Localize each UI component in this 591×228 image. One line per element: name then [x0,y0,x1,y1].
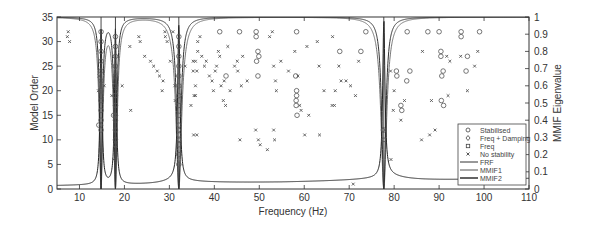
no-stability-marker [223,79,226,82]
no-stability-marker [331,35,334,38]
no-stability-marker [323,89,326,92]
x-tick-label: 100 [476,192,493,203]
no-stability-marker [172,30,175,33]
no-stability-marker [218,55,221,58]
no-stability-marker [158,75,161,78]
stabilised-marker [408,69,413,74]
no-stability-marker [337,65,340,68]
no-stability-marker [466,89,469,92]
no-stability-marker [316,40,319,43]
stabilised-marker [254,29,259,34]
stabilised-marker [399,103,404,108]
no-stability-marker [318,134,321,137]
no-stability-marker [164,35,167,38]
y2-tick-label: 0 [534,184,540,195]
no-stability-marker [214,70,217,73]
no-stability-marker [143,55,146,58]
legend-item-freq-damping: Freq + Damping [480,135,530,143]
no-stability-marker [192,70,195,73]
stabilised-marker [441,103,446,108]
stabilised-marker [254,59,259,64]
stabilised-marker [439,98,444,103]
y2-tick-label: 0.1 [534,166,548,177]
no-stability-marker [156,70,159,73]
no-stability-marker [430,99,433,102]
no-stability-marker [448,60,451,63]
no-stability-marker [139,40,142,43]
y2-axis-label: MMIF Eigenvalue [552,64,563,142]
no-stability-marker [307,114,310,117]
no-stability-marker [300,109,303,112]
no-stability-marker [208,75,211,78]
no-stability-marker [271,30,274,33]
no-stability-marker [445,55,448,58]
stabilised-marker [237,29,242,34]
stabilised-marker [395,74,400,79]
x-tick-label: 90 [434,192,446,203]
stabilised-marker [294,93,299,98]
no-stability-marker [240,84,243,87]
no-stability-marker [272,129,275,132]
stabilised-marker [337,49,342,54]
y2-tick-label: 0.5 [534,98,548,109]
no-stability-marker [275,89,278,92]
x-tick-label: 40 [209,192,221,203]
no-stability-marker [354,94,357,97]
no-stability-marker [389,70,392,73]
no-stability-marker [246,79,249,82]
no-stability-marker [421,50,424,53]
stabilised-marker [405,29,410,34]
no-stability-marker [357,60,360,63]
stabilised-marker [399,108,404,113]
no-stability-marker [190,104,193,107]
y2-tick-label: 0.6 [534,80,548,91]
stabilised-marker [254,34,259,39]
no-stability-marker [420,138,423,141]
stabilised-marker [294,103,299,108]
no-stability-marker [459,55,462,58]
y-axis-label: Model Order [29,75,40,131]
no-stability-marker [273,138,276,141]
no-stability-marker [212,89,215,92]
no-stability-marker [390,158,393,161]
no-stability-marker [137,35,140,38]
y-axis-ticks: 05101520253035 [42,12,61,195]
y2-tick-label: 0.2 [534,149,548,160]
no-stability-marker [203,65,206,68]
no-stability-marker [274,79,277,82]
no-stability-marker [152,65,155,68]
no-stability-marker [196,50,199,53]
no-stability-marker [352,183,355,186]
no-stability-marker [473,65,476,68]
stabilised-marker [364,29,369,34]
stabilised-marker [359,49,364,54]
no-stability-marker [259,143,262,146]
stabilised-marker [404,79,409,84]
stabilised-marker [426,29,431,34]
no-stability-marker [334,89,337,92]
no-stability-marker [272,65,275,68]
stabilised-marker [256,49,261,54]
y-tick-label: 20 [42,85,54,96]
no-stability-marker [166,40,169,43]
no-stability-marker [211,79,214,82]
no-stability-marker [233,65,236,68]
no-stability-marker [229,89,232,92]
x-tick-label: 80 [389,192,401,203]
y2-tick-label: 0.4 [534,115,548,126]
no-stability-marker [399,119,402,122]
no-stability-marker [447,94,450,97]
y2-tick-label: 0.3 [534,132,548,143]
no-stability-marker [200,55,203,58]
no-stability-marker [161,89,164,92]
no-stability-marker [224,104,227,107]
y2-tick-label: 0.7 [534,63,548,74]
no-stability-marker [279,60,282,63]
stabilised-marker [294,29,299,34]
no-stability-marker [68,40,71,43]
y-tick-label: 30 [42,36,54,47]
y2-tick-label: 1 [534,12,540,23]
x-tick-label: 50 [254,192,266,203]
no-stability-marker [403,99,406,102]
no-stability-marker [66,35,69,38]
